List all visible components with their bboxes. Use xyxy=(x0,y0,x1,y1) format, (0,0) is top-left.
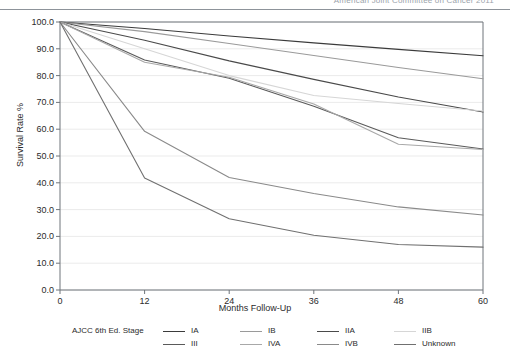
legend-label: IB xyxy=(268,326,276,335)
y-tick-label: 30.0 xyxy=(8,205,54,215)
chart-legend: AJCC 6th Ed. Stage IAIBIIAIIBIIIIVAIVBUn… xyxy=(0,322,510,361)
legend-label: IIA xyxy=(345,326,355,335)
y-tick-label: 100.0 xyxy=(8,17,54,27)
series-line-iia xyxy=(60,22,483,112)
y-tick-label: 90.0 xyxy=(8,44,54,54)
legend-swatch-iia xyxy=(317,331,339,332)
legend-swatch-iii xyxy=(163,344,185,345)
legend-label: IVB xyxy=(345,339,358,348)
legend-label: III xyxy=(191,339,198,348)
legend-swatch-iib xyxy=(394,331,416,332)
y-tick-label: 10.0 xyxy=(8,258,54,268)
legend-swatch-ivb xyxy=(317,344,339,345)
legend-label: Unknown xyxy=(422,339,455,348)
plot-canvas xyxy=(0,0,510,318)
y-tick-label: 20.0 xyxy=(8,231,54,241)
legend-label: IA xyxy=(191,326,199,335)
legend-title: AJCC 6th Ed. Stage xyxy=(72,326,144,335)
legend-label: IVA xyxy=(268,339,280,348)
legend-swatch-ia xyxy=(163,331,185,332)
y-axis-title: Survival Rate % xyxy=(15,75,25,195)
legend-swatch-unknown xyxy=(394,344,416,345)
y-tick-label: 0.0 xyxy=(8,285,54,295)
survival-chart: 0.010.020.030.040.050.060.070.080.090.01… xyxy=(0,0,510,318)
legend-swatch-iva xyxy=(240,344,262,345)
x-axis-title: Months Follow-Up xyxy=(0,303,510,313)
series-line-unknown xyxy=(60,22,483,247)
chart-page: American Joint Committee on Cancer 2011 … xyxy=(0,0,510,361)
legend-label: IIB xyxy=(422,326,432,335)
legend-swatch-ib xyxy=(240,331,262,332)
